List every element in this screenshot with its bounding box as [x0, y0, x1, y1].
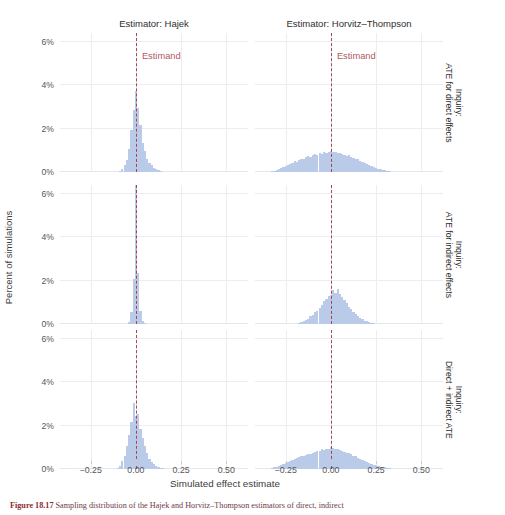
y-tick-label: 2% [20, 125, 54, 133]
row-strip-direct: Inquiry:ATE for direct effects [445, 33, 461, 172]
y-tick-label: 0% [20, 320, 54, 328]
estimand-line [136, 33, 137, 172]
y-tick-label: 0% [20, 465, 54, 473]
column-strip-horvitz-thompson: Estimator: Horvitz–Thompson [255, 17, 443, 31]
figure-sampling-distribution: Percent of simulations Estimator: Hajek … [0, 0, 505, 515]
y-tick-label: 4% [20, 378, 54, 386]
x-tick-mark [181, 461, 182, 464]
histogram-bar [271, 171, 273, 172]
panel-indirect-ht [255, 185, 443, 324]
estimand-label: Estimand [337, 51, 376, 61]
estimand-line [331, 330, 332, 469]
panel-both-hajek [60, 330, 248, 469]
x-tick-label: 0.50 [401, 465, 441, 475]
histogram-bar [273, 171, 275, 172]
figure-caption: Figure 18.17 Sampling distribution of th… [10, 500, 495, 514]
histogram-bar [389, 171, 391, 172]
x-tick-label: 0.00 [116, 465, 156, 475]
x-tick-mark [421, 461, 422, 464]
x-tick-label: −0.25 [71, 465, 111, 475]
row-strip-line1: Inquiry: [453, 63, 463, 142]
x-tick-mark [286, 461, 287, 464]
panel-indirect-hajek [60, 185, 248, 324]
histogram-bars [255, 185, 443, 324]
estimand-line [331, 33, 332, 172]
y-tick-label: 2% [20, 277, 54, 285]
y-tick-label: 4% [20, 233, 54, 241]
row-strip-indirect: Inquiry:ATE for indirect effects [445, 185, 461, 324]
estimand-label: Estimand [142, 51, 181, 61]
row-strip-line2: ATE for indirect effects [443, 211, 453, 297]
row-strip-line2: ATE for direct effects [443, 63, 453, 142]
y-tick-label: 6% [20, 335, 54, 343]
panel-direct-ht: Estimand [255, 33, 443, 172]
x-axis-title: Simulated effect estimate [0, 478, 450, 489]
estimand-line [331, 185, 332, 324]
y-tick-label: 2% [20, 422, 54, 430]
column-strip-hajek: Estimator: Hajek [60, 17, 248, 31]
histogram-bar [160, 171, 162, 172]
caption-body: Sampling distribution of the Hajek and H… [54, 501, 344, 510]
row-strip-line2: Direct + indirect ATE [443, 361, 453, 439]
panel-both-ht [255, 330, 443, 469]
histogram-bars [60, 330, 248, 469]
y-tick-label: 6% [20, 190, 54, 198]
panel-direct-hajek: Estimand [60, 33, 248, 172]
histogram-bars [60, 185, 248, 324]
x-tick-mark [376, 461, 377, 464]
y-tick-label: 6% [20, 38, 54, 46]
histogram-bar [373, 323, 375, 324]
x-tick-label: 0.00 [311, 465, 351, 475]
x-tick-label: 0.50 [206, 465, 246, 475]
histogram-bars [255, 330, 443, 469]
x-tick-label: −0.25 [266, 465, 306, 475]
x-tick-mark [226, 461, 227, 464]
row-strip-line1: Inquiry: [453, 361, 463, 439]
y-axis-title: Percent of simulations [2, 0, 16, 515]
estimand-line [136, 330, 137, 469]
x-tick-mark [136, 461, 137, 464]
row-strip-both: Inquiry:Direct + indirect ATE [445, 330, 461, 469]
x-tick-mark [331, 461, 332, 464]
histogram-bar [144, 323, 146, 324]
estimand-line [136, 185, 137, 324]
x-tick-mark [91, 461, 92, 464]
caption-number: Figure 18.17 [10, 501, 54, 510]
row-strip-line1: Inquiry: [453, 211, 463, 297]
x-tick-label: 0.25 [356, 465, 396, 475]
x-tick-label: 0.25 [161, 465, 201, 475]
y-tick-label: 4% [20, 81, 54, 89]
y-tick-label: 0% [20, 168, 54, 176]
